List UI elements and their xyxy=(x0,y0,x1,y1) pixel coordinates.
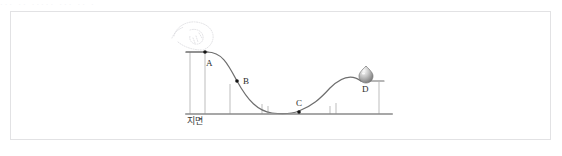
point-b-dot xyxy=(235,79,239,83)
figure-frame: A B C D 지면 xyxy=(10,11,551,140)
ball-at-d xyxy=(359,66,373,83)
track-points xyxy=(203,50,301,114)
scan-top-text-strip: ··· ·· ····· ··· ·· · xyxy=(0,0,562,9)
point-label-b: B xyxy=(243,76,249,86)
point-a-dot xyxy=(203,50,207,54)
point-label-c: C xyxy=(296,98,302,108)
point-label-a: A xyxy=(206,58,213,68)
hand-drawn-scribble-icon xyxy=(172,22,213,50)
point-c-dot xyxy=(297,110,301,114)
platforms xyxy=(186,52,384,81)
ground-label: 지면 xyxy=(187,116,203,126)
point-label-d: D xyxy=(362,84,369,94)
figure-page: ··· ·· ····· ··· ·· · xyxy=(0,0,562,156)
energy-track-illustration: A B C D 지면 xyxy=(11,12,550,139)
support-posts xyxy=(190,52,379,114)
